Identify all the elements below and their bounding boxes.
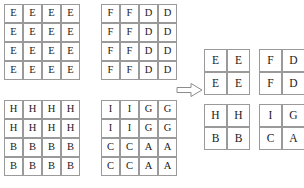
grid-cell: D [139,4,158,23]
grid-cell: E [23,23,42,42]
grid-cell: E [23,61,42,80]
grid-cell: E [61,61,80,80]
grid-cell: D [158,4,177,23]
grid-cell: F [120,42,139,61]
grid-cell: D [158,23,177,42]
grid-cell: F [120,61,139,80]
result-grid-igca: IGCA [259,104,304,150]
grid-cell: F [120,4,139,23]
grid-cell: H [61,100,80,119]
grid-cell: E [4,61,23,80]
grid-cell: D [158,42,177,61]
grid-cell: H [4,100,23,119]
grid-cell: B [42,138,61,157]
grid-cell: H [42,119,61,138]
grid-cell: E [42,61,61,80]
grid-cell: E [4,4,23,23]
grid-cell: F [259,49,282,72]
grid-cell: H [23,100,42,119]
grid-cell: E [4,42,23,61]
result-grid-fd: FDFD [259,49,304,95]
source-grid-e: EEEEEEEEEEEEEEEE [4,4,80,80]
grid-cell: C [120,157,139,176]
grid-cell: G [139,119,158,138]
grid-cell: B [23,157,42,176]
grid-cell: I [120,119,139,138]
grid-cell: I [101,100,120,119]
grid-cell: E [23,4,42,23]
result-grid-hb: HHBB [204,104,250,150]
grid-cell: D [139,42,158,61]
grid-cell: B [42,157,61,176]
block-pooling-diagram: EEEEEEEEEEEEEEEE FFDDFFDDFFDDFFDD HHHHHH… [0,0,304,188]
grid-cell: E [42,4,61,23]
grid-cell: I [259,104,282,127]
grid-cell: A [139,138,158,157]
grid-cell: B [204,127,227,150]
result-grid-e: EEEE [204,49,250,95]
source-grid-igca: IIGGIIGGCCAACCAA [101,100,177,176]
grid-cell: D [282,49,304,72]
grid-cell: G [282,104,304,127]
grid-cell: F [101,4,120,23]
grid-cell: B [61,138,80,157]
grid-cell: G [139,100,158,119]
grid-cell: B [4,157,23,176]
grid-cell: E [4,23,23,42]
grid-cell: E [42,42,61,61]
grid-cell: H [227,104,250,127]
grid-cell: D [139,23,158,42]
grid-cell: A [282,127,304,150]
grid-cell: F [101,23,120,42]
grid-cell: F [101,61,120,80]
grid-cell: I [120,100,139,119]
grid-cell: F [259,72,282,95]
grid-cell: A [139,157,158,176]
source-grid-fd: FFDDFFDDFFDDFFDD [101,4,177,80]
grid-cell: E [227,72,250,95]
grid-cell: A [158,138,177,157]
grid-cell: B [23,138,42,157]
grid-cell: C [101,138,120,157]
grid-cell: H [204,104,227,127]
grid-cell: G [158,119,177,138]
grid-cell: C [120,138,139,157]
source-grid-hb: HHHHHHHHBBBBBBBB [4,100,80,176]
grid-cell: G [158,100,177,119]
grid-cell: H [61,119,80,138]
grid-cell: B [61,157,80,176]
grid-cell: E [204,72,227,95]
grid-cell: E [204,49,227,72]
grid-cell: E [42,23,61,42]
grid-cell: B [4,138,23,157]
grid-cell: E [61,23,80,42]
grid-cell: I [101,119,120,138]
grid-cell: F [101,42,120,61]
grid-cell: H [42,100,61,119]
transform-arrow-icon [176,81,204,99]
grid-cell: H [23,119,42,138]
grid-cell: B [227,127,250,150]
grid-cell: D [158,61,177,80]
grid-cell: F [120,23,139,42]
grid-cell: A [158,157,177,176]
grid-cell: H [4,119,23,138]
grid-cell: C [259,127,282,150]
grid-cell: D [282,72,304,95]
grid-cell: D [139,61,158,80]
grid-cell: E [23,42,42,61]
grid-cell: E [227,49,250,72]
grid-cell: E [61,42,80,61]
grid-cell: E [61,4,80,23]
grid-cell: C [101,157,120,176]
